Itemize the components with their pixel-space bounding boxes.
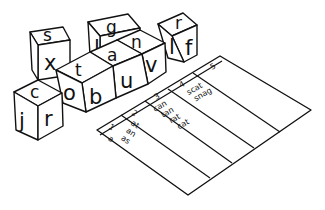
- letter-cubes-illustration: 1 a 2 at an as 3 can tan rat cat 4 scat …: [0, 0, 325, 210]
- cube-letter: r: [44, 107, 53, 131]
- cube-letter: x: [44, 51, 56, 75]
- cube-letter: o: [63, 81, 76, 105]
- cube-letter: a: [107, 45, 117, 65]
- cube-letter: g: [106, 17, 117, 37]
- cube-letter: l: [169, 35, 175, 59]
- cube-letter: v: [145, 53, 157, 77]
- cube-letter: u: [120, 69, 133, 93]
- cube-letter: t: [75, 60, 82, 80]
- cube-letter: s: [43, 25, 52, 45]
- cube-letter: b: [89, 85, 102, 109]
- cube-letter: c: [30, 82, 39, 102]
- cube-letter: r: [175, 13, 182, 33]
- cube-letter: j: [18, 109, 25, 133]
- cube-cjr: c j r: [14, 80, 63, 140]
- cube-letter: f: [185, 36, 193, 60]
